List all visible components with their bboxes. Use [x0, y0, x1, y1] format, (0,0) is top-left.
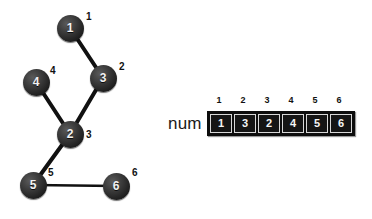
graph-node-index-label: 5 — [48, 168, 54, 178]
graph-node-index-label: 2 — [119, 62, 125, 72]
graph-node[interactable]: 4 — [23, 69, 50, 96]
graph-node-index-label: 4 — [50, 66, 56, 76]
graph-node-index-label: 3 — [86, 130, 92, 140]
graph-node[interactable]: 3 — [90, 65, 117, 92]
graph-node-value: 4 — [33, 76, 40, 88]
graph-node[interactable]: 1 — [57, 15, 84, 42]
array-index-label: 5 — [303, 96, 327, 105]
array-index-label: 3 — [255, 96, 279, 105]
array-index-label: 4 — [279, 96, 303, 105]
graph-node-value: 5 — [30, 179, 37, 191]
graph-node[interactable]: 6 — [103, 173, 130, 200]
array-cell[interactable]: 2 — [258, 114, 280, 133]
array-cell[interactable]: 4 — [282, 114, 304, 133]
graph-node-value: 1 — [67, 22, 74, 34]
array-index-label: 1 — [207, 96, 231, 105]
graph-node[interactable]: 2 — [57, 121, 84, 148]
array-cells: 132456 — [207, 111, 355, 136]
array-cell[interactable]: 3 — [234, 114, 256, 133]
graph-panel: 113244235566 — [0, 0, 170, 219]
graph-node-value: 2 — [67, 128, 74, 140]
diagram-canvas: 113244235566 num 123456 132456 — [0, 0, 372, 219]
array-cell[interactable]: 1 — [210, 114, 232, 133]
array-index-label: 2 — [231, 96, 255, 105]
array-name-label: num — [168, 115, 202, 132]
array-index-label: 6 — [327, 96, 351, 105]
array-cell[interactable]: 6 — [330, 114, 352, 133]
array-index-row: 123456 — [207, 96, 351, 105]
graph-node-index-label: 6 — [132, 168, 138, 178]
graph-node-value: 3 — [100, 72, 107, 84]
graph-node-value: 6 — [113, 180, 120, 192]
graph-node-index-label: 1 — [86, 12, 92, 22]
graph-node[interactable]: 5 — [20, 172, 47, 199]
array-cell[interactable]: 5 — [306, 114, 328, 133]
